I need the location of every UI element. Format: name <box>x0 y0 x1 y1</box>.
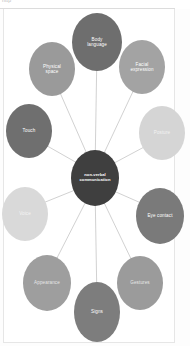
diagram-node-signs[interactable]: Signs <box>74 282 120 342</box>
diagram-edge-appearance <box>56 202 85 259</box>
diagram-node-touch-label: Touch <box>21 128 38 133</box>
radial-diagram: BodylanguageFacialexpressionPostureEye c… <box>0 0 190 346</box>
diagram-node-body-language[interactable]: Bodylanguage <box>72 13 122 71</box>
diagram-node-posture-label: Posture <box>152 130 173 135</box>
diagram-node-posture[interactable]: Posture <box>139 106 185 160</box>
diagram-node-voice[interactable]: Voice <box>2 187 48 241</box>
diagram-node-facial-expression[interactable]: Facialexpression <box>119 40 165 94</box>
diagram-node-signs-label: Signs <box>89 309 105 314</box>
diagram-node-eye-contact[interactable]: Eye contact <box>136 188 184 244</box>
diagram-edge-facial-expression <box>104 90 134 154</box>
diagram-node-touch[interactable]: Touch <box>6 104 52 158</box>
diagram-edge-physical-space <box>60 92 87 153</box>
diagram-edge-voice <box>44 190 75 202</box>
diagram-edge-eye-contact <box>115 191 141 203</box>
diagram-node-appearance[interactable]: Appearance <box>23 255 71 311</box>
diagram-node-gestures[interactable]: Gestures <box>117 256 163 310</box>
diagram-node-facial-expression-label: Facialexpression <box>128 62 155 73</box>
diagram-node-physical-space[interactable]: Physicalspace <box>29 42 75 96</box>
diagram-node-voice-label: Voice <box>17 211 33 216</box>
diagram-node-appearance-label: Appearance <box>32 280 62 285</box>
diagram-edge-posture <box>114 147 145 163</box>
diagram-node-center[interactable]: non-verbalcommunication <box>71 150 119 206</box>
diagram-edge-touch <box>46 145 76 162</box>
diagram-node-physical-space-label: Physicalspace <box>41 64 63 75</box>
diagram-edge-body-language <box>95 69 96 152</box>
diagram-edge-gestures <box>104 202 132 260</box>
diagram-edge-signs <box>95 205 96 285</box>
diagram-node-center-label: non-verbalcommunication <box>78 173 113 182</box>
diagram-node-eye-contact-label: Eye contact <box>145 213 174 218</box>
page-root: http BodylanguageFacialexpressionPosture… <box>0 0 190 346</box>
diagram-node-body-language-label: Bodylanguage <box>85 37 109 48</box>
diagram-node-gestures-label: Gestures <box>128 280 151 285</box>
